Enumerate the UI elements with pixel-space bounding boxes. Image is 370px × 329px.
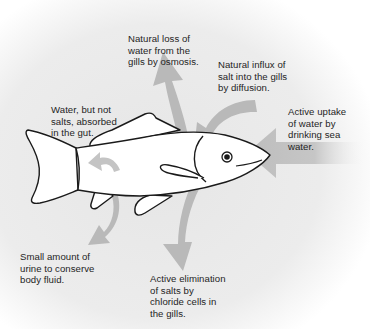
label-urine: Small amount of urine to conserve body f… bbox=[20, 251, 100, 286]
label-salt-elimination: Active elimination of salts by chloride … bbox=[150, 273, 240, 319]
label-water-loss: Natural loss of water from the gills by … bbox=[128, 33, 208, 68]
label-salt-influx: Natural influx of salt into the gills by… bbox=[218, 59, 298, 94]
fish-eye-pupil bbox=[224, 154, 230, 160]
label-drinking: Active uptake of water by drinking sea w… bbox=[288, 106, 358, 152]
label-gut-absorption: Water, but not salts, absorbed in the gu… bbox=[51, 104, 121, 139]
